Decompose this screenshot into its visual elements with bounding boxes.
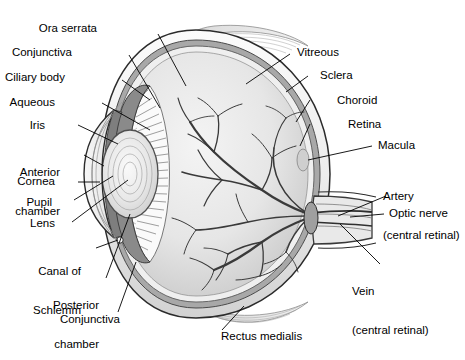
label-artery-line2: (central retinal) xyxy=(383,229,460,242)
label-posterior-chamber-line2: chamber xyxy=(53,338,99,351)
lens xyxy=(102,130,158,218)
label-pupil: Pupil xyxy=(26,196,52,209)
label-vein: Vein (central retinal) xyxy=(352,259,429,360)
label-iris: Iris xyxy=(30,119,45,132)
label-artery-line1: Artery xyxy=(383,190,460,203)
label-aqueous: Aqueous xyxy=(10,96,55,109)
label-vein-line1: Vein xyxy=(352,285,429,298)
label-conjunctiva-bottom: Conjunctiva xyxy=(60,313,120,326)
label-ora-serrata: Ora serrata xyxy=(39,22,97,35)
label-optic-nerve: Optic nerve xyxy=(389,207,448,220)
label-cornea: Cornea xyxy=(17,175,55,188)
label-lens: Lens xyxy=(30,217,55,230)
label-vein-line2: (central retinal) xyxy=(352,324,429,337)
label-vitreous: Vitreous xyxy=(297,46,339,59)
macula xyxy=(297,149,309,171)
eye-anatomy-figure: Ora serrata Conjunctiva Ciliary body Aqu… xyxy=(0,0,465,360)
label-conjunctiva-top: Conjunctiva xyxy=(12,46,72,59)
optic-nerve xyxy=(304,192,376,249)
label-retina: Retina xyxy=(348,118,381,131)
label-sclera: Sclera xyxy=(320,69,353,82)
label-rectus-medialis: Rectus medialis xyxy=(221,330,302,343)
label-macula: Macula xyxy=(378,139,415,152)
label-posterior-chamber-line1: Posterior xyxy=(53,299,99,312)
label-choroid: Choroid xyxy=(337,94,377,107)
label-ciliary-body: Ciliary body xyxy=(5,71,65,84)
